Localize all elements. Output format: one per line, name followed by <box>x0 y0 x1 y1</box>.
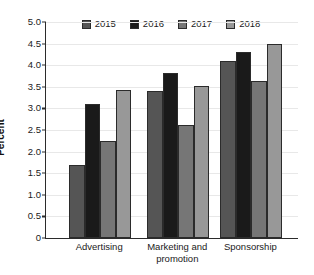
bar <box>220 61 236 238</box>
plot-area: 00.51.01.52.02.53.03.54.04.55.0 <box>45 22 298 239</box>
bar <box>251 81 267 238</box>
bar <box>100 141 116 238</box>
x-axis-labels: AdvertisingMarketing andpromotionSponsor… <box>45 241 297 275</box>
bar <box>178 125 194 238</box>
y-axis-title: Percent <box>0 0 30 275</box>
bar <box>236 52 252 238</box>
bar-chart: Percent 2015201620172018 00.51.01.52.02.… <box>0 0 314 275</box>
bar <box>85 104 101 238</box>
x-axis-label-line: promotion <box>127 253 227 265</box>
bar <box>194 86 210 238</box>
bar <box>147 91 163 238</box>
bar <box>116 90 132 238</box>
x-axis-label-line: Sponsorship <box>200 241 300 253</box>
bars-layer <box>46 22 298 238</box>
bar <box>69 165 85 238</box>
x-axis-label: Sponsorship <box>200 241 300 253</box>
bar <box>163 73 179 238</box>
bar <box>267 44 283 238</box>
